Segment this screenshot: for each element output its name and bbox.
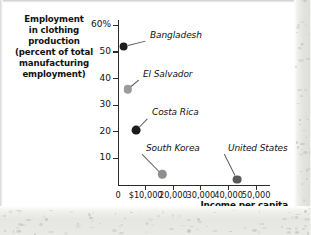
- scan-speckle: [39, 223, 43, 226]
- scan-speckle: [130, 212, 133, 213]
- scan-speckle: [180, 225, 186, 226]
- scan-speckle: [300, 143, 304, 146]
- leader-line: [224, 154, 236, 176]
- scan-speckle: [301, 149, 302, 150]
- scan-speckle: [304, 89, 307, 90]
- scatter-chart: Employmentin clothingproduction(percent …: [0, 0, 294, 206]
- scan-speckle: [308, 208, 310, 210]
- scan-speckle: [89, 227, 95, 228]
- y-axis-title-line: (percent of total: [8, 47, 100, 58]
- scan-speckle: [262, 223, 264, 224]
- scan-speckle: [309, 73, 310, 74]
- scan-speckle: [303, 151, 308, 154]
- scan-edge-bottom: [0, 206, 310, 235]
- y-tick-label-text: 60%: [91, 19, 111, 29]
- point-label-south-korea: South Korea: [146, 143, 200, 153]
- leader-line: [139, 118, 148, 128]
- scan-speckle: [291, 216, 294, 218]
- scan-speckle: [99, 223, 101, 224]
- scan-speckle: [306, 58, 310, 60]
- y-tick-label-text: 50: [100, 46, 111, 56]
- scan-speckle: [140, 214, 141, 215]
- y-tick-mark: [113, 131, 118, 132]
- scan-speckle: [16, 227, 20, 229]
- scan-speckle: [303, 199, 305, 201]
- point-label-united-states: United States: [228, 143, 288, 153]
- scan-speckle: [70, 211, 74, 212]
- scan-speckle: [88, 213, 90, 215]
- scan-speckle: [297, 89, 302, 91]
- scan-speckle: [298, 59, 304, 62]
- y-tick-label-text: 30: [100, 99, 111, 109]
- scan-speckle: [306, 206, 309, 208]
- y-axis-title: Employmentin clothingproduction(percent …: [8, 14, 100, 81]
- scan-speckle: [4, 230, 6, 232]
- y-tick-mark: [113, 105, 118, 106]
- scan-speckle: [304, 218, 310, 221]
- scan-speckle: [295, 227, 297, 230]
- scan-speckle: [177, 215, 181, 217]
- x-tick-label: $10,000: [129, 190, 163, 200]
- data-point-bangladesh[interactable]: [119, 42, 128, 51]
- y-axis-title-line: manufacturing: [8, 58, 100, 69]
- scan-speckle: [299, 119, 301, 121]
- scan-speckle: [64, 232, 68, 235]
- scan-speckle: [296, 141, 298, 143]
- scan-speckle: [187, 219, 190, 221]
- scan-speckle: [112, 229, 117, 232]
- x-tick-label: 20,000: [159, 190, 188, 200]
- x-tick-label: 40,000: [214, 190, 243, 200]
- scan-speckle: [19, 213, 20, 215]
- scan-speckle: [295, 214, 301, 215]
- data-point-united-states[interactable]: [232, 175, 241, 184]
- scan-speckle: [124, 217, 126, 220]
- scan-speckle: [306, 169, 308, 172]
- scan-speckle: [302, 130, 306, 131]
- scan-speckle: [162, 211, 164, 213]
- y-axis-title-line: production: [8, 36, 100, 47]
- scan-speckle: [49, 210, 52, 211]
- scan-speckle: [244, 227, 246, 229]
- scan-speckle: [18, 223, 22, 226]
- leader-line: [128, 41, 146, 46]
- data-point-south-korea[interactable]: [158, 170, 166, 178]
- scan-speckle: [289, 228, 291, 229]
- scan-speckle: [148, 218, 153, 221]
- scan-speckle: [206, 226, 207, 227]
- scan-speckle: [309, 151, 311, 154]
- scan-speckle: [146, 231, 147, 232]
- point-label-costa-rica: Costa Rica: [152, 107, 199, 117]
- point-label-el-salvador: El Salvador: [143, 69, 192, 79]
- scan-speckle: [198, 221, 202, 222]
- scan-speckle: [48, 231, 53, 234]
- point-label-bangladesh: Bangladesh: [150, 30, 202, 40]
- scan-speckle: [45, 218, 48, 221]
- y-tick-mark: [113, 51, 118, 52]
- y-tick-label-text: 10: [100, 152, 111, 162]
- scan-speckle: [77, 223, 79, 225]
- scan-speckle: [258, 231, 260, 233]
- x-tick-label: 30,000: [187, 190, 216, 200]
- y-tick-mark: [113, 25, 118, 26]
- scan-speckle: [17, 210, 22, 211]
- scan-speckle: [34, 233, 36, 235]
- scan-speckle: [151, 224, 154, 226]
- scan-speckle: [187, 230, 191, 233]
- y-axis-title-line: in clothing: [8, 25, 100, 36]
- y-tick-mark: [113, 78, 118, 79]
- scan-speckle: [252, 229, 257, 232]
- scan-speckle: [146, 222, 148, 224]
- x-axis-line: [118, 185, 270, 186]
- scan-speckle: [299, 21, 304, 23]
- x-tick-label: 50,000: [242, 190, 271, 200]
- scan-speckle: [26, 224, 27, 227]
- scan-edge-left: [0, 0, 3, 207]
- y-axis-title-line: employment): [8, 69, 100, 80]
- scan-speckle: [157, 215, 160, 217]
- scan-speckle: [297, 146, 299, 148]
- scan-edge-top: [0, 0, 310, 3]
- scan-speckle: [306, 178, 308, 179]
- scan-speckle: [16, 230, 21, 232]
- leader-line: [131, 80, 139, 87]
- y-tick-label-text: 40: [100, 73, 111, 83]
